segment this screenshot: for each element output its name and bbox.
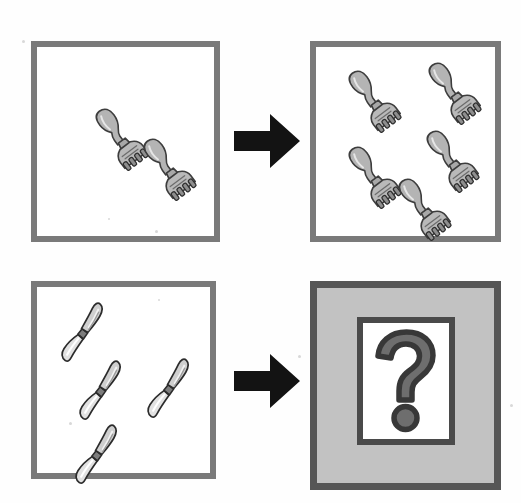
panel-top-left[interactable]	[31, 41, 220, 242]
knife-icon	[61, 351, 135, 425]
fork-icon	[412, 121, 486, 195]
knife-icon	[43, 293, 117, 367]
paper-speck	[108, 218, 110, 220]
fork-icon	[334, 61, 408, 135]
paper-speck	[158, 299, 160, 301]
paper-speck	[22, 40, 25, 43]
panel-top-right[interactable]	[310, 41, 501, 242]
arrow-right-icon-bottom	[232, 350, 302, 412]
paper-speck	[510, 404, 513, 407]
analogy-puzzle-canvas	[0, 0, 521, 503]
paper-speck	[69, 422, 72, 425]
panel-bottom-right-answer[interactable]	[310, 281, 501, 490]
knife-icon	[129, 349, 203, 423]
knife-icon	[57, 415, 131, 489]
fork-icon	[384, 169, 458, 243]
arrow-right-icon-top	[232, 110, 302, 172]
question-mark-icon	[374, 329, 438, 433]
paper-speck	[155, 230, 158, 233]
answer-inner-box[interactable]	[357, 317, 455, 445]
fork-icon	[81, 99, 155, 173]
panel-bottom-left[interactable]	[31, 281, 216, 479]
paper-speck	[298, 355, 301, 358]
fork-icon	[129, 129, 203, 203]
fork-icon	[414, 53, 488, 127]
fork-icon	[334, 137, 408, 211]
